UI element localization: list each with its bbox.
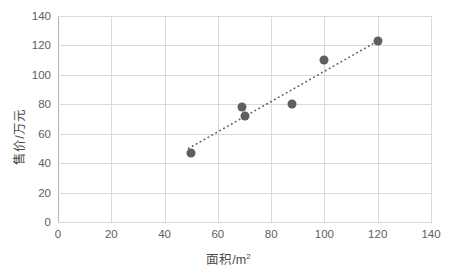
data-point xyxy=(320,56,329,65)
gridline-horizontal xyxy=(58,75,431,76)
gridline-vertical xyxy=(165,16,166,222)
x-tick-label: 20 xyxy=(91,228,131,240)
data-point xyxy=(240,112,249,121)
gridline-vertical xyxy=(431,16,432,222)
gridline-vertical xyxy=(378,16,379,222)
x-tick-label: 0 xyxy=(38,228,78,240)
y-tick-label: 0 xyxy=(17,216,51,228)
data-point xyxy=(288,100,297,109)
y-tick-label: 100 xyxy=(17,69,51,81)
y-axis-line xyxy=(58,16,59,223)
gridline-vertical xyxy=(218,16,219,222)
x-axis-title-text: 面积/m xyxy=(206,253,246,267)
gridline-horizontal xyxy=(58,134,431,135)
x-tick-label: 60 xyxy=(198,228,238,240)
gridline-horizontal xyxy=(58,222,431,223)
gridline-vertical xyxy=(111,16,112,222)
gridline-horizontal xyxy=(58,16,431,17)
x-tick-label: 80 xyxy=(251,228,291,240)
y-axis-title: 售价/万元 xyxy=(9,82,28,192)
gridline-vertical xyxy=(324,16,325,222)
gridline-horizontal xyxy=(58,163,431,164)
scatter-chart: 020406080100120140020406080100120140 面积/… xyxy=(0,0,457,274)
x-axis-title-superscript: 2 xyxy=(246,252,250,261)
x-tick-label: 40 xyxy=(145,228,185,240)
data-point xyxy=(373,37,382,46)
y-tick-label: 120 xyxy=(17,39,51,51)
data-point xyxy=(237,103,246,112)
x-axis-title: 面积/m2 xyxy=(0,249,457,268)
gridline-horizontal xyxy=(58,193,431,194)
x-tick-label: 100 xyxy=(304,228,344,240)
gridline-vertical xyxy=(271,16,272,222)
data-point xyxy=(187,148,196,157)
y-tick-label: 140 xyxy=(17,10,51,22)
x-tick-label: 140 xyxy=(411,228,451,240)
x-tick-label: 120 xyxy=(358,228,398,240)
